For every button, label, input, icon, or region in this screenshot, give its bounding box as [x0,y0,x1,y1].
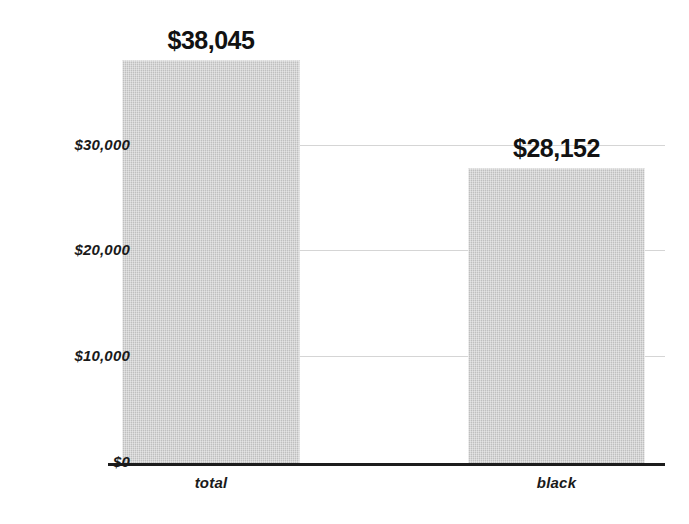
value-label-black: $28,152 [468,134,645,163]
x-axis-line [108,463,665,466]
ytick-label-10000: $10,000 [30,347,130,364]
bar-chart: $30,000 $20,000 $10,000 $0 $38,045 $28,1… [0,0,689,524]
value-label-total: $38,045 [122,26,300,55]
bar-total [122,60,300,464]
ytick-label-0: $0 [30,453,130,470]
category-label-total: total [122,474,300,491]
ytick-label-30000: $30,000 [30,136,130,153]
ytick-label-20000: $20,000 [30,241,130,258]
bar-black [468,168,645,464]
category-label-black: black [468,474,645,491]
